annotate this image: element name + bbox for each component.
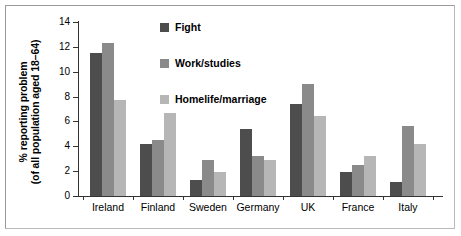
bar bbox=[190, 180, 202, 196]
y-tick bbox=[73, 97, 78, 98]
y-tick-label: 0 bbox=[52, 196, 70, 206]
bar bbox=[102, 43, 114, 196]
bar bbox=[390, 182, 402, 196]
x-axis-label: Italy bbox=[383, 201, 433, 213]
legend-item: Fight bbox=[160, 22, 201, 33]
y-tick-label: 8 bbox=[52, 97, 70, 107]
bar bbox=[414, 144, 426, 196]
bar bbox=[140, 144, 152, 196]
y-tick-label: 10 bbox=[52, 72, 70, 82]
x-axis-label: UK bbox=[283, 201, 333, 213]
y-tick-label-text: 0 bbox=[52, 191, 70, 201]
bar bbox=[352, 165, 364, 196]
bar bbox=[402, 126, 414, 196]
x-axis-label: France bbox=[333, 201, 383, 213]
bar bbox=[214, 172, 226, 196]
legend-label: Homelife/marriage bbox=[175, 94, 267, 105]
x-tick bbox=[233, 196, 234, 200]
y-tick-label: 6 bbox=[52, 121, 70, 131]
y-tick bbox=[73, 171, 78, 172]
x-tick bbox=[433, 196, 434, 200]
y-tick bbox=[73, 121, 78, 122]
y-axis-title-line1: % reporting problem bbox=[17, 62, 29, 163]
y-tick-label-text: 14 bbox=[52, 17, 70, 27]
legend-item: Work/studies bbox=[160, 58, 241, 69]
y-tick bbox=[73, 47, 78, 48]
bar bbox=[90, 53, 102, 196]
x-tick bbox=[333, 196, 334, 200]
y-axis-title-line2: (of all population aged 18–64) bbox=[29, 40, 41, 185]
x-axis-label: Germany bbox=[233, 201, 283, 213]
legend-swatch-icon bbox=[160, 95, 169, 104]
y-tick-label: 2 bbox=[52, 171, 70, 181]
legend-label: Work/studies bbox=[175, 58, 241, 69]
legend-swatch-icon bbox=[160, 59, 169, 68]
x-tick bbox=[83, 196, 84, 200]
x-axis-label: Sweden bbox=[183, 201, 233, 213]
bar-chart-figure: % reporting problem (of all population a… bbox=[0, 0, 461, 236]
y-axis-title: % reporting problem (of all population a… bbox=[17, 24, 41, 200]
plot-area: % reporting problem (of all population a… bbox=[0, 0, 461, 236]
y-tick-label-text: 10 bbox=[52, 67, 70, 77]
y-tick-label-text: 2 bbox=[52, 166, 70, 176]
x-tick bbox=[383, 196, 384, 200]
x-axis-label: Ireland bbox=[83, 201, 133, 213]
bar bbox=[164, 113, 176, 196]
legend-item: Homelife/marriage bbox=[160, 94, 267, 105]
y-tick-label: 12 bbox=[52, 47, 70, 57]
x-axis-label: Finland bbox=[133, 201, 183, 213]
bar bbox=[252, 156, 264, 196]
y-tick bbox=[73, 146, 78, 147]
y-tick bbox=[73, 22, 78, 23]
y-tick-label-text: 6 bbox=[52, 116, 70, 126]
bar bbox=[340, 172, 352, 196]
y-tick-label: 14 bbox=[52, 22, 70, 32]
legend-swatch-icon bbox=[160, 23, 169, 32]
bar bbox=[152, 140, 164, 196]
y-tick-label-text: 4 bbox=[52, 141, 70, 151]
x-tick bbox=[133, 196, 134, 200]
bar bbox=[114, 100, 126, 196]
bar bbox=[202, 160, 214, 196]
bar bbox=[364, 156, 376, 196]
bar bbox=[264, 160, 276, 196]
bar bbox=[290, 104, 302, 196]
y-tick bbox=[73, 196, 78, 197]
bar bbox=[240, 129, 252, 196]
x-tick bbox=[283, 196, 284, 200]
legend-label: Fight bbox=[175, 22, 201, 33]
bar bbox=[314, 116, 326, 196]
y-tick-label: 4 bbox=[52, 146, 70, 156]
y-tick bbox=[73, 72, 78, 73]
y-tick-label-text: 12 bbox=[52, 42, 70, 52]
y-tick-label-text: 8 bbox=[52, 92, 70, 102]
y-axis-line bbox=[78, 21, 79, 197]
bar bbox=[302, 84, 314, 196]
x-tick bbox=[183, 196, 184, 200]
